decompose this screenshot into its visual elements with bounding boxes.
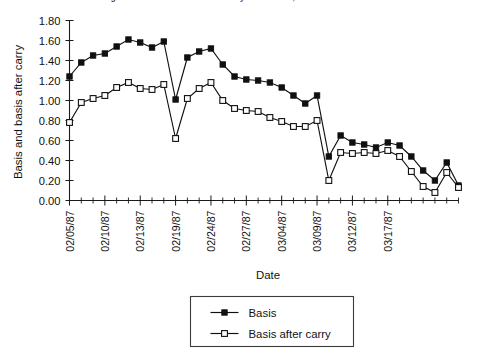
data-point-marker [432,178,437,183]
chart-title: Figure 4. Basis and basis after carry fo… [0,0,477,2]
data-point-marker [102,93,108,99]
data-point-marker [149,87,155,93]
data-point-marker [114,44,119,49]
data-point-marker [362,142,367,147]
x-axis-tick-label: 03/04/87 [276,210,288,251]
data-point-marker [397,143,402,148]
data-point-marker [361,150,367,156]
data-point-marker [444,160,449,165]
data-point-marker [243,108,249,114]
x-axis-tick-label: 02/27/87 [240,210,252,251]
data-point-marker [350,140,355,145]
chart-figure: Figure 4. Basis and basis after carry fo… [0,0,477,363]
data-point-marker [67,120,73,126]
data-point-marker [385,148,391,154]
data-point-marker [350,151,356,157]
x-axis-tick-label: 02/19/87 [170,210,182,251]
data-point-marker [79,60,84,65]
x-axis-title: Date [256,269,280,281]
x-axis-tick-label: 03/09/87 [311,210,323,251]
data-point-marker [90,96,96,102]
data-point-marker [161,39,166,44]
y-axis-tick-label: 0.80 [39,115,61,127]
data-point-marker [232,74,237,79]
data-point-marker [314,118,320,124]
data-point-marker [102,51,107,56]
y-axis-tick-label: 1.40 [39,55,61,67]
data-point-marker [267,80,272,85]
y-axis-tick-label: 0.40 [39,155,61,167]
chart-legend: BasisBasis after carry [191,297,354,347]
data-point-marker [137,86,143,92]
y-axis-tick-label: 1.80 [39,15,61,27]
data-point-marker [67,74,72,79]
y-axis-tick-label: 1.20 [39,75,61,87]
data-point-marker [279,85,284,90]
data-point-marker [244,77,249,82]
x-axis-tick-label: 02/10/87 [99,210,111,251]
data-point-marker [173,97,178,102]
data-point-marker [196,86,202,92]
data-point-marker [138,40,143,45]
data-point-marker [338,150,344,156]
x-axis: 02/05/8702/10/8702/13/8702/19/8702/24/87… [64,196,459,252]
data-point-marker [291,93,296,98]
data-point-marker [255,78,260,83]
data-point-marker [326,178,332,184]
data-point-marker [267,115,273,121]
legend-sample-marker [222,310,227,315]
data-point-marker [185,55,190,60]
data-point-marker [444,170,450,176]
data-point-marker [220,62,225,67]
y-axis-tick-label: 1.00 [39,95,61,107]
data-point-marker [220,98,226,104]
legend-label: Basis [249,307,277,319]
y-axis-tick-label: 0.60 [39,135,61,147]
y-axis: 0.000.200.400.600.801.001.201.401.601.80 [39,15,74,207]
data-point-marker [291,124,297,130]
data-point-marker [456,185,462,191]
data-point-marker [432,190,438,196]
data-point-marker [326,154,331,159]
data-point-marker [420,184,426,190]
x-axis-tick-label: 03/12/87 [346,210,358,251]
data-point-marker [208,80,214,86]
data-point-marker [338,133,343,138]
data-point-marker [126,80,132,86]
line-chart-plot: 0.000.200.400.600.801.001.201.401.601.80… [0,0,477,363]
y-axis-title: Basis and basis after carry [12,45,24,180]
series-polyline [70,83,459,193]
data-point-marker [373,151,379,157]
series-layer [67,37,462,196]
data-point-marker [302,124,308,130]
x-axis-tick-label: 02/05/87 [64,210,76,251]
y-axis-tick-label: 0.20 [39,175,61,187]
series-polyline [70,40,459,186]
x-axis-tick-label: 02/24/87 [205,210,217,251]
data-point-marker [161,82,167,88]
data-point-marker [173,136,179,142]
y-axis-tick-label: 1.60 [39,35,61,47]
data-point-marker [397,154,403,160]
data-point-marker [303,101,308,106]
data-point-marker [149,45,154,50]
legend-label: Basis after carry [249,328,332,340]
x-axis-tick-label: 02/13/87 [134,210,146,251]
series-basis-after-carry [67,80,462,196]
data-point-marker [408,169,414,175]
data-point-marker [196,49,201,54]
data-point-marker [385,140,390,145]
data-point-marker [208,46,213,51]
data-point-marker [90,53,95,58]
data-point-marker [279,119,285,125]
data-point-marker [114,85,120,91]
data-point-marker [184,96,190,102]
data-point-marker [126,37,131,42]
data-point-marker [78,100,84,106]
y-axis-tick-label: 0.00 [39,195,61,207]
data-point-marker [373,145,378,150]
data-point-marker [232,106,238,112]
data-point-marker [420,168,425,173]
data-point-marker [314,93,319,98]
x-axis-tick-label: 03/17/87 [382,210,394,251]
